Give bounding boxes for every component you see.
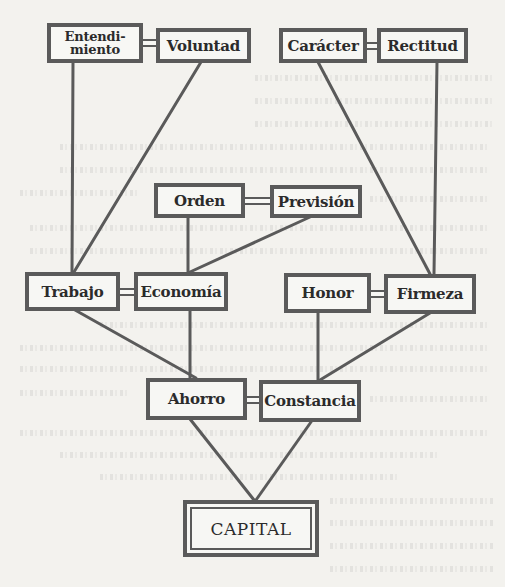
node-prevision-label: Previsión	[278, 195, 354, 209]
node-ahorro-label: Ahorro	[168, 392, 225, 406]
node-prevision: Previsión	[270, 185, 362, 218]
node-caracter: Carácter	[279, 28, 367, 63]
node-trabajo: Trabajo	[25, 272, 120, 311]
edge-rectitud-firmeza	[434, 62, 437, 274]
edge-firmeza-constancia	[320, 313, 430, 380]
node-honor: Honor	[284, 273, 371, 313]
edge-entendimiento-trabajo	[72, 62, 73, 272]
node-capital-label: CAPITAL	[211, 522, 292, 536]
node-economia: Economía	[134, 272, 228, 311]
edge-voluntad-trabajo	[74, 62, 201, 272]
node-orden-label: Orden	[174, 194, 225, 208]
node-voluntad-label: Voluntad	[167, 39, 240, 53]
edge-caracter-firmeza	[318, 62, 430, 274]
node-capital: CAPITAL	[183, 500, 319, 557]
node-firmeza: Firmeza	[384, 274, 476, 314]
node-rectitud-label: Rectitud	[387, 39, 458, 53]
node-entendimiento-line2: miento	[70, 43, 120, 56]
edge-trabajo-ahorro	[75, 310, 196, 378]
edge-prevision-economia	[190, 217, 310, 272]
pair-link-orden-prevision	[243, 197, 272, 205]
node-honor-label: Honor	[302, 286, 354, 300]
node-constancia: Constancia	[259, 380, 361, 422]
node-orden: Orden	[154, 183, 245, 218]
node-entendimiento: Entendi- miento	[47, 23, 143, 63]
node-ahorro: Ahorro	[146, 378, 247, 420]
node-caracter-label: Carácter	[287, 39, 358, 53]
node-voluntad: Voluntad	[156, 28, 251, 63]
node-rectitud: Rectitud	[377, 28, 468, 63]
node-constancia-label: Constancia	[264, 394, 355, 408]
edge-constancia-capital	[256, 422, 311, 500]
edge-ahorro-capital	[190, 419, 254, 500]
node-firmeza-label: Firmeza	[397, 287, 464, 301]
node-trabajo-label: Trabajo	[42, 285, 104, 299]
node-economia-label: Economía	[140, 285, 221, 299]
